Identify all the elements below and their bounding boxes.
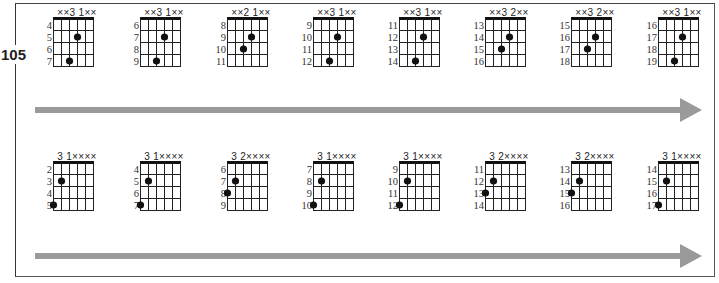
arrow-shaft xyxy=(35,253,685,259)
arrow-shaft xyxy=(35,107,685,113)
arrow-head-icon xyxy=(680,98,702,122)
progression-arrow-row-1 xyxy=(0,0,719,283)
arrow-head-icon xyxy=(680,244,702,268)
